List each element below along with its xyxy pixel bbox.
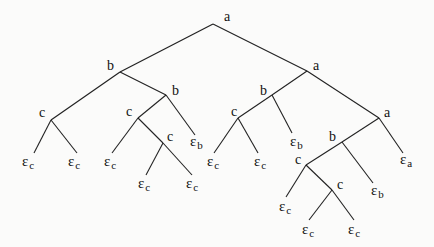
tree-node-label: c — [337, 178, 343, 192]
epsilon-symbol: ε — [207, 153, 213, 169]
tree-edge — [306, 165, 332, 190]
tree-leaf-label: εc — [302, 222, 314, 239]
epsilon-symbol: ε — [68, 153, 74, 169]
epsilon-symbol: ε — [400, 151, 406, 167]
tree-node-label: c — [126, 105, 132, 119]
tree-node-label: c — [231, 105, 237, 119]
leaf-subscript: c — [111, 159, 116, 171]
epsilon-symbol: ε — [186, 175, 192, 191]
tree-edge — [112, 118, 138, 153]
tree-node-label: b — [107, 59, 114, 73]
tree-edge — [342, 142, 373, 183]
tree-leaf-label: εc — [104, 154, 116, 171]
epsilon-symbol: ε — [290, 133, 296, 149]
tree-edge — [138, 95, 166, 118]
tree-edge — [272, 71, 307, 95]
tree-edge — [332, 190, 354, 220]
tree-node-label: a — [224, 10, 230, 24]
tree-edge — [163, 143, 192, 175]
epsilon-symbol: ε — [302, 221, 308, 237]
leaf-subscript: c — [261, 159, 266, 171]
tree-leaf-label: εc — [22, 154, 34, 171]
leaf-subscript: c — [145, 181, 150, 193]
tree-leaf-label: εc — [186, 176, 198, 193]
epsilon-symbol: ε — [190, 133, 196, 149]
tree-leaf-label: εc — [207, 154, 219, 171]
tree-leaf-label: εb — [190, 134, 203, 151]
tree-edge — [51, 120, 77, 153]
tree-edge — [306, 142, 342, 165]
tree-leaf-label: εc — [254, 154, 266, 171]
tree-edge — [272, 95, 292, 133]
tree-leaf-label: εa — [400, 152, 412, 169]
tree-edge — [379, 118, 403, 153]
leaf-subscript: c — [75, 159, 80, 171]
leaf-subscript: b — [197, 139, 203, 151]
tree-leaf-label: εc — [279, 199, 291, 216]
tree-edge — [214, 118, 238, 153]
tree-edge — [120, 72, 166, 95]
epsilon-symbol: ε — [22, 153, 28, 169]
tree-node-label: c — [39, 106, 45, 120]
tree-node-label: b — [260, 84, 267, 98]
tree-leaf-label: εc — [68, 154, 80, 171]
leaf-subscript: c — [214, 159, 219, 171]
tree-edge — [309, 190, 332, 220]
epsilon-symbol: ε — [254, 153, 260, 169]
tree-edge — [146, 143, 163, 175]
epsilon-symbol: ε — [279, 198, 285, 214]
epsilon-symbol: ε — [371, 182, 377, 198]
tree-edge — [342, 118, 379, 142]
tree-node-label: b — [172, 84, 179, 98]
epsilon-symbol: ε — [104, 153, 110, 169]
tree-edge — [213, 24, 307, 71]
leaf-subscript: b — [378, 188, 384, 200]
tree-node-label: a — [313, 59, 319, 73]
epsilon-symbol: ε — [138, 175, 144, 191]
tree-node-label: a — [384, 106, 390, 120]
tree-leaf-label: εb — [371, 183, 384, 200]
tree-node-label: c — [295, 153, 301, 167]
leaf-subscript: c — [29, 159, 34, 171]
tree-edge — [34, 120, 51, 153]
leaf-subscript: c — [193, 181, 198, 193]
tree-edge — [238, 95, 272, 118]
tree-edge — [238, 118, 258, 153]
leaf-subscript: c — [355, 227, 360, 239]
tree-leaf-label: εc — [138, 176, 150, 193]
tree-node-label: c — [167, 130, 173, 144]
epsilon-symbol: ε — [348, 221, 354, 237]
tree-node-label: b — [329, 130, 336, 144]
tree-edge — [307, 71, 379, 118]
tree-edge — [138, 118, 163, 143]
tree-edge — [51, 72, 120, 120]
tree-edge — [120, 24, 213, 72]
leaf-subscript: a — [407, 157, 412, 169]
tree-edge — [286, 165, 306, 197]
leaf-subscript: c — [286, 204, 291, 216]
tree-leaf-label: εc — [348, 222, 360, 239]
leaf-subscript: c — [309, 227, 314, 239]
tree-leaf-label: εb — [290, 134, 303, 151]
tree-edges — [0, 0, 434, 247]
leaf-subscript: b — [297, 139, 303, 151]
